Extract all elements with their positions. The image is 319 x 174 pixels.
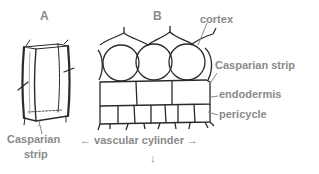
panel-a-cell [18,40,74,126]
panel-b-tissue [98,26,216,130]
right-arrow-icon: → [187,134,198,146]
casparian-strip-label: Casparian strip [215,60,295,71]
panel-a-casparian-strip-label-line2: strip [24,149,48,160]
vascular-cylinder-row: ← vascular cylinder → [80,135,198,146]
left-arrow-icon: ← [80,134,91,146]
panel-a-label: A [40,10,49,22]
down-arrow-icon: ↓ [150,153,156,164]
vascular-cylinder-label: vascular cylinder [94,134,184,146]
panel-b-label: B [153,10,162,22]
cortex-label: cortex [200,14,233,25]
pericycle-label: pericycle [219,109,267,120]
endodermis-label: endodermis [219,89,281,100]
panel-a-casparian-strip-label-line1: Casparian [7,134,60,145]
